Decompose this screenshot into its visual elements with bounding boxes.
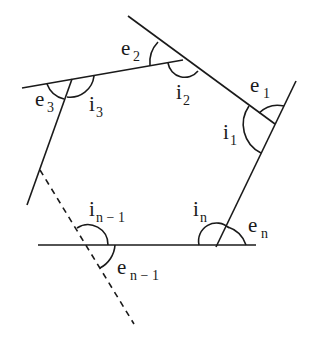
svg-text:i: i	[89, 197, 95, 221]
label-e2: e 2	[121, 36, 140, 64]
angle-arc-in	[199, 223, 229, 245]
label-i1: i 1	[223, 120, 237, 148]
label-i2: i 2	[176, 80, 190, 108]
side-v2-v1-extended	[128, 16, 275, 124]
dashed-side-to-vn1	[40, 170, 134, 324]
svg-text:n: n	[261, 226, 268, 241]
label-e1: e 1	[250, 73, 270, 101]
svg-text:n − 1: n − 1	[96, 210, 125, 225]
angle-arc-e3	[47, 84, 64, 99]
angle-arc-en	[228, 227, 246, 245]
svg-text:2: 2	[183, 93, 190, 108]
label-en: e n	[248, 213, 268, 241]
svg-text:3: 3	[96, 105, 103, 120]
label-in-1: i n − 1	[89, 197, 125, 225]
svg-text:e: e	[121, 36, 130, 60]
label-en-1: e n − 1	[117, 255, 159, 283]
svg-text:i: i	[193, 197, 199, 221]
svg-text:i: i	[223, 120, 229, 144]
svg-text:1: 1	[263, 86, 270, 101]
angle-arc-i2	[168, 63, 198, 77]
svg-text:e: e	[248, 213, 257, 237]
label-in: i n	[193, 197, 207, 225]
svg-text:i: i	[89, 92, 95, 116]
angle-arc-en-1	[100, 245, 115, 268]
angle-arc-in-1	[77, 225, 108, 245]
side-v3-v2-extended	[22, 60, 183, 88]
svg-text:e: e	[250, 73, 259, 97]
side-v3-left-extended	[27, 79, 72, 205]
svg-text:i: i	[176, 80, 182, 104]
svg-text:2: 2	[133, 49, 140, 64]
svg-text:n: n	[200, 210, 207, 225]
polygon-angle-diagram: e 2 i 2 e 1 i 1 e 3 i 3 i n − 1 i n e n …	[0, 0, 314, 349]
svg-text:1: 1	[230, 133, 237, 148]
svg-text:e: e	[117, 255, 126, 279]
angle-arc-e2	[150, 42, 158, 66]
svg-text:3: 3	[47, 100, 54, 115]
label-i3: i 3	[89, 92, 103, 120]
svg-text:n − 1: n − 1	[130, 268, 159, 283]
svg-text:e: e	[35, 87, 44, 111]
angle-arc-i1	[243, 106, 261, 153]
